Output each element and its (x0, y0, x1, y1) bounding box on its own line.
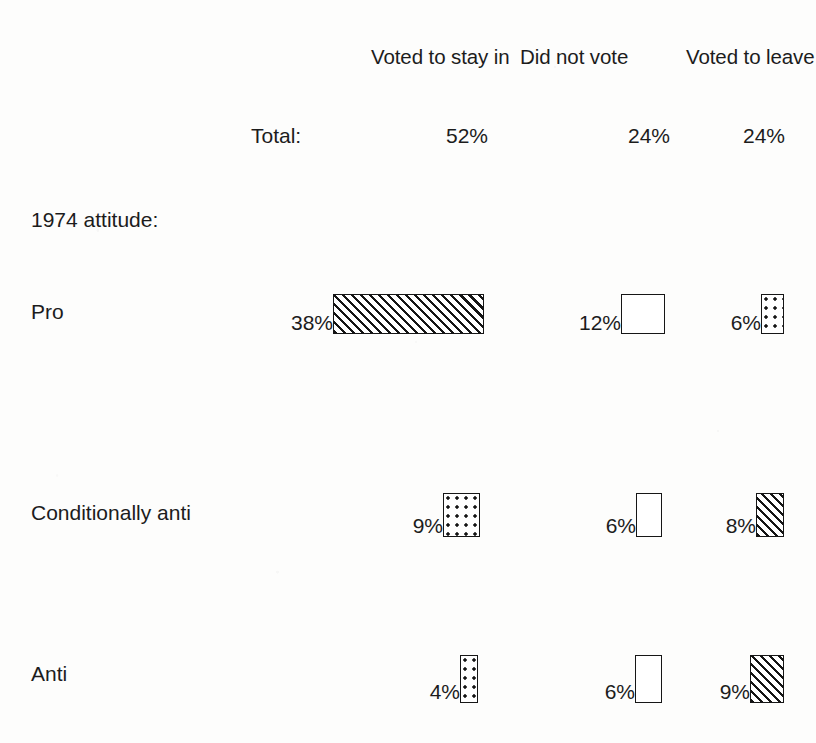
bar-value-anti-stay: 4% (430, 681, 460, 703)
bar-box-conditionally-anti-leave (756, 493, 784, 537)
bar-box-anti-did-not-vote (635, 655, 662, 703)
column-header-voted-to-leave: Voted to leave (686, 44, 816, 69)
column-header-did-not-vote: Did not vote (520, 44, 680, 69)
bar-value-conditionally-anti-leave: 8% (726, 515, 756, 537)
bar-value-pro-leave: 6% (731, 312, 761, 334)
bar-cell-conditionally-anti-leave: 8% (690, 493, 784, 537)
bar-cell-anti-stay: 4% (380, 655, 478, 703)
bar-cell-pro-did-not-vote: 12% (545, 294, 665, 334)
bar-cell-pro-leave: 6% (690, 294, 784, 334)
bar-box-conditionally-anti-stay (443, 493, 480, 537)
total-value-stay: 52% (380, 124, 488, 148)
bar-box-anti-stay (460, 655, 478, 703)
bar-box-conditionally-anti-did-not-vote (636, 493, 662, 537)
bar-box-pro-leave (761, 294, 784, 334)
bar-box-anti-leave (750, 655, 784, 703)
row-label-anti: Anti (31, 662, 67, 686)
bar-cell-conditionally-anti-did-not-vote: 6% (565, 493, 662, 537)
section-label-1974-attitude: 1974 attitude: (31, 208, 158, 232)
scan-grain-overlay (0, 0, 816, 743)
bar-box-pro-did-not-vote (621, 294, 665, 334)
bar-box-pro-stay (333, 294, 484, 334)
total-value-did-not-vote: 24% (560, 124, 670, 148)
bar-cell-pro-stay: 38% (264, 294, 484, 334)
column-header-voted-to-stay-in: Voted to stay in (371, 44, 511, 69)
bar-cell-conditionally-anti-stay: 9% (370, 493, 480, 537)
chart-page: referendum vote Voted to stay in Did not… (0, 0, 816, 743)
bar-value-pro-stay: 38% (291, 312, 333, 334)
total-row-label: Total: (251, 124, 301, 148)
bar-value-conditionally-anti-stay: 9% (413, 515, 443, 537)
bar-cell-anti-did-not-vote: 6% (565, 655, 662, 703)
bar-value-anti-leave: 9% (720, 681, 750, 703)
row-label-conditionally-anti: Conditionally anti (31, 501, 191, 525)
bar-value-pro-did-not-vote: 12% (579, 312, 621, 334)
bar-value-anti-did-not-vote: 6% (605, 681, 635, 703)
bar-value-conditionally-anti-did-not-vote: 6% (606, 515, 636, 537)
bar-cell-anti-leave: 9% (690, 655, 784, 703)
total-value-leave: 24% (680, 124, 785, 148)
row-label-pro: Pro (31, 300, 64, 324)
